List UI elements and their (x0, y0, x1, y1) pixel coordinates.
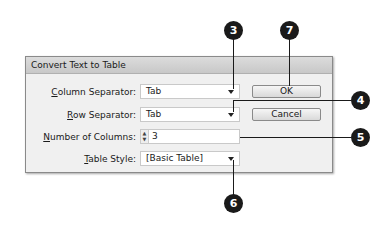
label-text: able Style: (88, 154, 136, 164)
ok-button[interactable]: OK (252, 85, 321, 98)
spin-down-icon[interactable]: ▼ (141, 136, 148, 142)
callout-line-3 (233, 39, 234, 89)
dropdown-value: Tab (146, 109, 161, 119)
callout-4: 4 (351, 91, 370, 110)
callout-line-7 (289, 39, 290, 86)
column-separator-label: Column Separator: (31, 87, 136, 97)
cancel-button[interactable]: Cancel (252, 108, 321, 121)
callout-3: 3 (224, 21, 243, 40)
stepper-value: 3 (152, 131, 158, 141)
dialog-title: Convert Text to Table (26, 57, 332, 74)
chevron-down-icon (228, 113, 234, 117)
label-text: olumn Separator: (58, 87, 136, 97)
mnemonic: N (43, 132, 50, 142)
number-of-columns-stepper[interactable]: ▲ ▼ 3 (140, 129, 240, 144)
table-style-dropdown[interactable]: [Basic Table] (140, 151, 240, 166)
dropdown-value: [Basic Table] (146, 153, 203, 163)
table-style-label: Table Style: (31, 154, 136, 164)
row-separator-dropdown[interactable]: Tab (140, 107, 240, 122)
label-text: ow Separator: (73, 110, 136, 120)
row-separator-label: Row Separator: (31, 110, 136, 120)
callout-7: 7 (280, 21, 299, 40)
chevron-down-icon (228, 90, 234, 94)
column-separator-dropdown[interactable]: Tab (140, 84, 240, 99)
convert-text-to-table-dialog: Convert Text to Table Column Separator: … (25, 56, 333, 173)
dropdown-value: Tab (146, 86, 161, 96)
spin-buttons[interactable]: ▲ ▼ (141, 130, 149, 143)
callout-line-4 (233, 100, 351, 101)
callout-line-6 (233, 160, 234, 195)
callout-line-5 (240, 137, 351, 138)
label-text: umber of Columns: (50, 132, 136, 142)
callout-line-4-drop (233, 100, 234, 112)
callout-6: 6 (224, 194, 243, 213)
callout-5: 5 (351, 128, 370, 147)
number-of-columns-label: Number of Columns: (31, 132, 136, 142)
